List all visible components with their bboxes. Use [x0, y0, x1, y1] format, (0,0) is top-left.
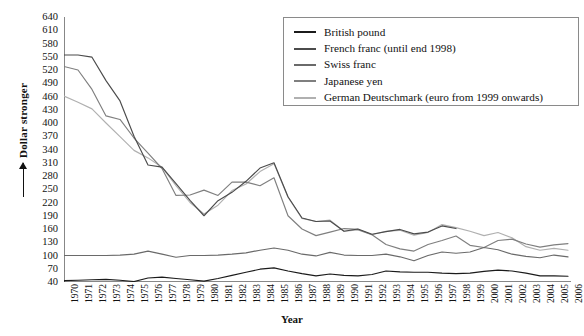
legend-swatch-icon — [294, 31, 316, 33]
y-tick-label: 460 — [24, 92, 58, 102]
y-tick-label: 430 — [24, 105, 58, 115]
legend-item-label: French franc (until end 1998) — [324, 42, 456, 55]
series-line — [64, 96, 568, 250]
y-tick-label: 640 — [24, 12, 58, 22]
y-tick-label: 100 — [24, 251, 58, 261]
y-tick-label: 520 — [24, 65, 58, 75]
legend-swatch-icon — [294, 64, 316, 66]
y-tick-label: 70 — [24, 264, 58, 274]
legend-item: Swiss franc — [294, 57, 570, 73]
y-tick-label: 550 — [24, 52, 58, 62]
legend-swatch-icon — [294, 97, 316, 99]
y-tick-label: 310 — [24, 158, 58, 168]
y-tick-label: 370 — [24, 131, 58, 141]
legend-item: British pound — [294, 24, 570, 40]
y-tick-label: 40 — [24, 277, 58, 287]
series-line — [64, 268, 568, 282]
legend-swatch-icon — [294, 80, 316, 82]
series-line — [64, 248, 568, 261]
chart-legend: British poundFrench franc (until end 199… — [283, 17, 579, 106]
legend-item-label: Swiss franc — [324, 58, 376, 71]
legend-item: French franc (until end 1998) — [294, 40, 570, 56]
y-tick-label: 490 — [24, 78, 58, 88]
chart-figure: Dollar stronger 640610580550520490460430… — [0, 0, 584, 336]
y-tick-label: 580 — [24, 39, 58, 49]
legend-item-label: Japanese yen — [324, 75, 383, 88]
y-tick-label: 610 — [24, 25, 58, 35]
y-tick-label: 280 — [24, 171, 58, 181]
y-axis-ticks: 6406105805505204904604304003703403102802… — [22, 0, 58, 336]
legend-item: Japanese yen — [294, 73, 570, 89]
legend-item-label: British pound — [324, 26, 385, 39]
y-tick-label: 340 — [24, 145, 58, 155]
y-tick-label: 250 — [24, 184, 58, 194]
y-tick-label: 130 — [24, 237, 58, 247]
legend-item-label: German Deutschmark (euro from 1999 onwar… — [324, 91, 543, 104]
y-tick-label: 220 — [24, 198, 58, 208]
y-tick-label: 190 — [24, 211, 58, 221]
legend-item: German Deutschmark (euro from 1999 onwar… — [294, 90, 570, 106]
legend-swatch-icon — [294, 48, 316, 50]
x-axis-title: Year — [0, 313, 584, 325]
y-tick-label: 400 — [24, 118, 58, 128]
y-tick-label: 160 — [24, 224, 58, 234]
